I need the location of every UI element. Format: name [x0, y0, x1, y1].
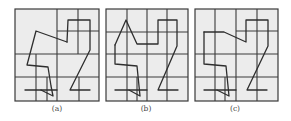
panel-b: (b): [106, 9, 188, 113]
panel-label: (b): [141, 104, 152, 113]
figure-canvas: (a) (b) (c): [0, 0, 291, 121]
panel-a: (a): [15, 9, 99, 113]
panel-label: (a): [52, 104, 62, 113]
panel-label: (c): [230, 104, 240, 113]
panel-c: (c): [195, 9, 278, 113]
